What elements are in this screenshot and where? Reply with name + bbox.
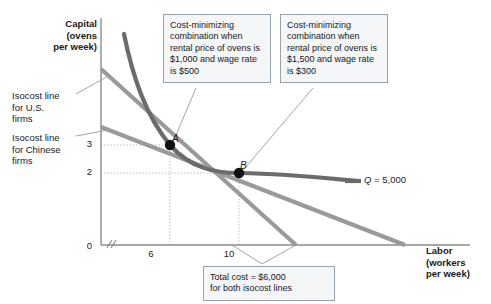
leader-cn-label [76, 130, 108, 136]
y-tick-3: 3 [70, 138, 92, 149]
callout-chinese-cost: Cost-minimizing combination when rental … [280, 14, 388, 83]
isoquant-symbol: Q [364, 174, 371, 185]
isoquant-label: Q = 5,000 [364, 174, 406, 185]
axis-break-marks [107, 240, 116, 248]
isocost-chinese-label: Isocost line for Chinese firms [12, 132, 61, 167]
isoquant-value: = 5,000 [374, 174, 406, 185]
isoquant-isocost-figure: Capital (ovens per week) Labor (workers … [0, 0, 491, 304]
leader-callout-cn-to-b [245, 88, 313, 168]
point-a-label: A [172, 133, 179, 144]
x-axis-title: Labor (workers per week) [426, 245, 490, 280]
leader-total-to-us-intercept [262, 245, 296, 264]
leader-us-label [76, 75, 110, 94]
isocost-line-chinese [101, 127, 405, 245]
y-tick-2: 2 [70, 166, 92, 177]
callout-us-cost: Cost-minimizing combination when rental … [163, 14, 271, 83]
point-b-label: B [240, 160, 247, 171]
y-axis-title: Capital (ovens per week) [12, 18, 97, 53]
x-tick-6: 6 [143, 248, 159, 259]
x-tick-10: 10 [220, 248, 238, 259]
isocost-line-us [101, 69, 296, 245]
origin-label: 0 [70, 240, 92, 251]
guide-lines [101, 145, 239, 245]
leader-lines [76, 75, 313, 264]
isocost-us-label: Isocost line for U.S. firms [12, 90, 60, 125]
callout-total-cost: Total cost = $6,000 for both isocost lin… [203, 266, 335, 301]
